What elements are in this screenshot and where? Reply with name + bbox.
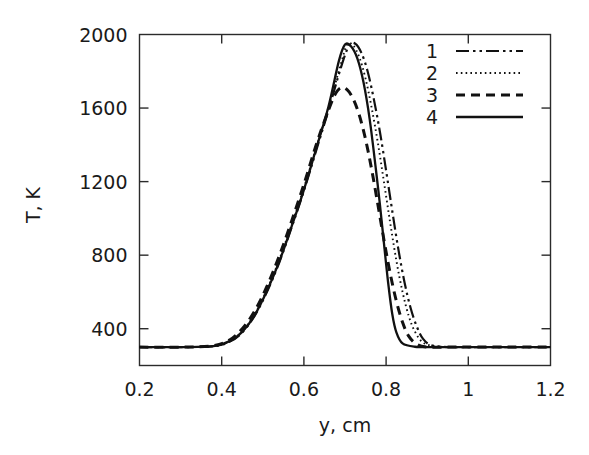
legend-label-3: 3	[426, 84, 438, 106]
y-tick-label: 1200	[79, 171, 127, 193]
y-tick-label: 1600	[79, 97, 127, 119]
y-axis-label: T, K	[22, 186, 44, 224]
x-axis-label: y, cm	[319, 414, 371, 436]
temperature-profile-chart: 0.20.40.60.811.2 400800120016002000 y, c…	[0, 0, 589, 455]
x-tick-label: 0.2	[124, 378, 154, 400]
x-tick-label: 0.4	[207, 378, 237, 400]
chart-figure: 0.20.40.60.811.2 400800120016002000 y, c…	[0, 0, 589, 455]
x-tick-label: 0.8	[371, 378, 401, 400]
legend-label-4: 4	[426, 106, 438, 128]
x-tick-label: 1	[462, 378, 474, 400]
legend-label-1: 1	[426, 40, 438, 62]
y-tick-label: 400	[91, 318, 127, 340]
x-tick-label: 1.2	[535, 378, 565, 400]
x-tick-label: 0.6	[289, 378, 319, 400]
y-tick-label: 2000	[79, 24, 127, 46]
y-tick-label: 800	[91, 244, 127, 266]
legend-label-2: 2	[426, 62, 438, 84]
